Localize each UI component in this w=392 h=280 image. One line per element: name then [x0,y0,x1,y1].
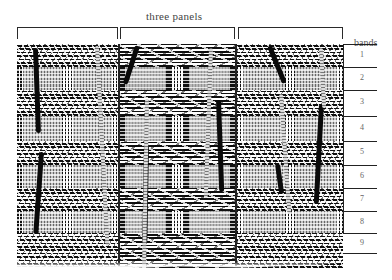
band-2 [17,67,118,90]
textile-image [17,44,343,268]
band-divider [343,44,377,45]
band-divider [343,253,377,254]
band-number: 5 [356,147,368,156]
band-divider [343,90,377,91]
band-number: 7 [356,194,368,203]
band-3 [17,90,118,116]
band-number: 4 [356,123,368,132]
band-number: 2 [356,73,368,82]
band-divider [343,67,377,68]
band-3 [237,90,343,116]
band-8 [120,211,235,233]
band-number: 6 [356,171,368,180]
band-7 [120,188,235,211]
band-number: 9 [356,238,368,247]
band-5 [237,141,343,165]
band-number: 8 [356,217,368,226]
band-number: 1 [356,50,368,59]
band-divider [343,165,377,166]
panel-bracket-right [238,27,343,39]
bands-label: bands [354,37,377,48]
band-ruler-rule [343,44,344,233]
band-divider [343,116,377,117]
band-divider [343,188,377,189]
band-4 [237,116,343,141]
band-1 [237,44,343,67]
band-number: 3 [356,97,368,106]
band-1 [17,44,118,67]
band-divider [343,233,377,234]
panel-bracket-center [120,27,235,39]
textile-panel-right [237,44,343,268]
band-8 [237,211,343,233]
band-divider [343,211,377,212]
panel-bracket-left [17,27,118,39]
band-6 [237,165,343,188]
band-2 [120,67,235,90]
band-2 [237,67,343,90]
figure-title: three panels [146,10,202,22]
band-divider [343,141,377,142]
